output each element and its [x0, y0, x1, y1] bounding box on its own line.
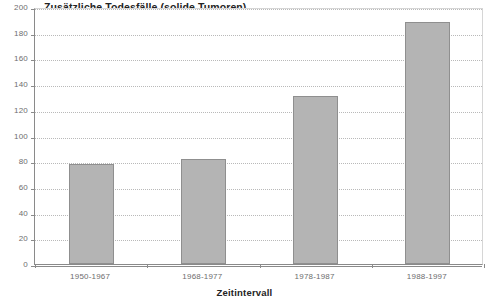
- y-tick-label: 140: [2, 81, 28, 89]
- y-tick-mark: [31, 9, 35, 10]
- x-tick-label: 1988-1997: [377, 272, 477, 281]
- gridline: [35, 266, 482, 267]
- y-tick-label: 20: [2, 235, 28, 243]
- x-axis-title: Zeitintervall: [0, 287, 489, 298]
- bar: [405, 22, 450, 264]
- y-tick-label: 40: [2, 210, 28, 218]
- x-tick-mark: [484, 264, 485, 268]
- bar: [181, 159, 226, 264]
- y-tick-mark: [31, 35, 35, 36]
- bar-chart: Zusätzliche Todesfälle (solide Tumoren) …: [0, 0, 489, 307]
- gridline: [35, 9, 482, 10]
- y-tick-mark: [31, 112, 35, 113]
- x-tick-label: 1968-1977: [152, 272, 252, 281]
- y-tick-label: 80: [2, 158, 28, 166]
- x-tick-label: 1950-1967: [40, 272, 140, 281]
- bar: [293, 96, 338, 264]
- y-tick-label: 120: [2, 107, 28, 115]
- plot-area: [34, 8, 483, 265]
- y-tick-label: 60: [2, 184, 28, 192]
- y-tick-mark: [31, 189, 35, 190]
- y-tick-mark: [31, 163, 35, 164]
- bar: [69, 164, 114, 264]
- y-tick-mark: [31, 60, 35, 61]
- x-tick-label: 1978-1987: [265, 272, 365, 281]
- y-tick-label: 160: [2, 55, 28, 63]
- x-tick-mark: [372, 264, 373, 268]
- x-tick-mark: [260, 264, 261, 268]
- y-tick-mark: [31, 215, 35, 216]
- x-tick-mark: [147, 264, 148, 268]
- y-tick-label: 200: [2, 4, 28, 12]
- y-tick-label: 180: [2, 30, 28, 38]
- y-tick-label: 0: [2, 261, 28, 269]
- y-tick-mark: [31, 138, 35, 139]
- y-tick-mark: [31, 86, 35, 87]
- x-tick-mark: [35, 264, 36, 268]
- y-tick-mark: [31, 240, 35, 241]
- y-tick-label: 100: [2, 133, 28, 141]
